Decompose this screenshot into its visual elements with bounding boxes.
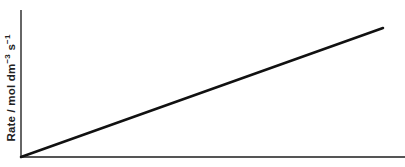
rate-line — [21, 28, 383, 157]
rate-chart — [0, 0, 405, 167]
y-axis-label: Rate / mol dm−3 s−1 — [3, 34, 17, 141]
